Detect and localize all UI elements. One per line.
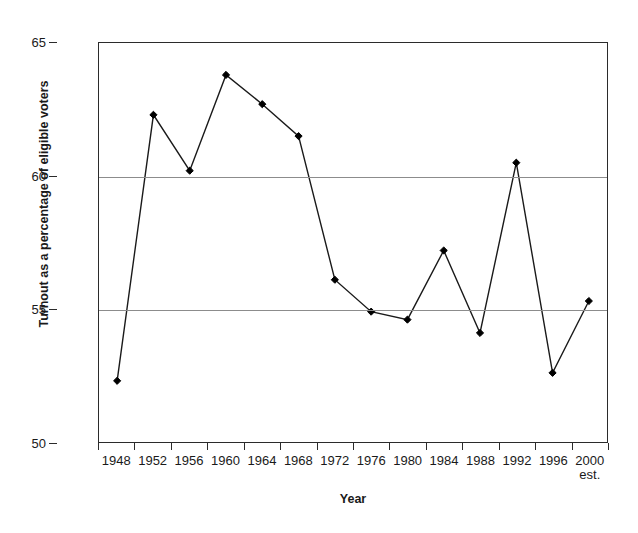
x-tick-mark (280, 443, 281, 450)
x-tick-label: 1984 (430, 454, 459, 468)
y-tick-label: 55 (32, 303, 46, 316)
data-point-marker (404, 316, 411, 323)
y-tick-label: 60 (32, 169, 46, 182)
y-axis: Turnout as a percentage of eligible vote… (0, 0, 98, 443)
y-tick-mark (49, 309, 57, 310)
x-tick-label: 1948 (102, 454, 131, 468)
data-point-marker (513, 159, 520, 166)
x-tick-label: 2000est. (575, 454, 604, 482)
x-tick-label: 1976 (357, 454, 386, 468)
data-point-marker (150, 111, 157, 118)
x-tick-mark (244, 443, 245, 450)
x-tick-mark (98, 443, 99, 450)
x-tick-mark (499, 443, 500, 450)
data-point-marker (440, 247, 447, 254)
x-tick-label: 1964 (247, 454, 276, 468)
x-axis-title: Year (98, 492, 608, 506)
x-tick-label: 1992 (502, 454, 531, 468)
x-tick-mark (207, 443, 208, 450)
x-tick-mark (134, 443, 135, 450)
y-tick-label: 50 (32, 437, 46, 450)
data-line (117, 75, 589, 381)
y-tick-mark (49, 42, 57, 43)
x-tick-label: 1996 (539, 454, 568, 468)
x-tick-mark (572, 443, 573, 450)
x-tick-label: 1980 (393, 454, 422, 468)
x-tick-mark (608, 443, 609, 450)
x-tick-label: 1968 (284, 454, 313, 468)
data-point-marker (186, 167, 193, 174)
data-point-marker (585, 297, 592, 304)
gridline (99, 310, 607, 311)
x-tick-mark (353, 443, 354, 450)
x-tick-mark (171, 443, 172, 450)
x-tick-label: 1956 (175, 454, 204, 468)
data-point-marker (114, 377, 121, 384)
x-tick-mark (426, 443, 427, 450)
x-tick-label: 1988 (466, 454, 495, 468)
x-tick-sublabel: est. (575, 468, 604, 482)
y-tick-label: 65 (32, 36, 46, 49)
x-tick-mark (462, 443, 463, 450)
x-tick-label: 1952 (138, 454, 167, 468)
plot-area (98, 42, 608, 443)
x-tick-mark (535, 443, 536, 450)
gridline (99, 177, 607, 178)
line-chart: Turnout as a percentage of eligible vote… (0, 0, 638, 533)
data-point-marker (549, 369, 556, 376)
x-tick-mark (389, 443, 390, 450)
y-tick-mark (49, 176, 57, 177)
x-tick-mark (317, 443, 318, 450)
series-line (99, 43, 607, 442)
x-tick-label: 1972 (320, 454, 349, 468)
x-tick-label: 1960 (211, 454, 240, 468)
y-tick-mark (49, 443, 57, 444)
data-point-marker (476, 329, 483, 336)
